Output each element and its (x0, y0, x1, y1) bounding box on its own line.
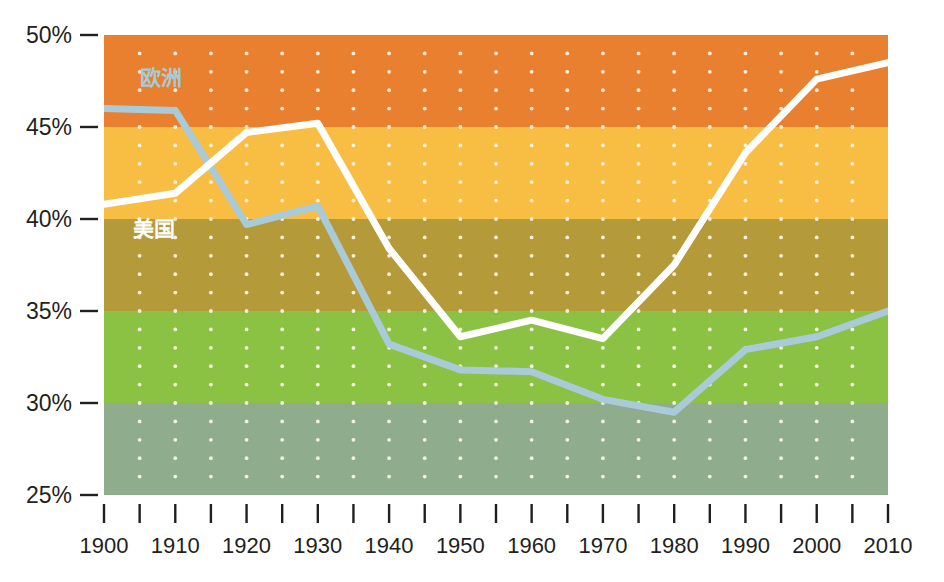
grid-dot (779, 438, 783, 442)
grid-dot (316, 70, 320, 74)
grid-dot (494, 254, 498, 258)
grid-dot (779, 162, 783, 166)
grid-dot (850, 401, 854, 405)
grid-dot (601, 144, 605, 148)
grid-dot (494, 420, 498, 424)
grid-dot (744, 254, 748, 258)
grid-dot (637, 70, 641, 74)
grid-dot (744, 217, 748, 221)
grid-dot (565, 272, 569, 276)
grid-dot (458, 456, 462, 460)
x-tick-label: 1980 (650, 533, 699, 558)
grid-dot (316, 88, 320, 92)
grid-dot (245, 309, 249, 313)
grid-dot (850, 107, 854, 111)
grid-dot (672, 291, 676, 295)
grid-dot (316, 291, 320, 295)
grid-dot (387, 272, 391, 276)
grid-dot (352, 383, 356, 387)
grid-dot (779, 401, 783, 405)
grid-dot (779, 364, 783, 368)
grid-dot (280, 180, 284, 184)
grid-dot (138, 328, 142, 332)
grid-dot (209, 401, 213, 405)
grid-dot (815, 199, 819, 203)
grid-dot (708, 309, 712, 313)
grid-dot (601, 125, 605, 129)
grid-dot (173, 475, 177, 479)
grid-dot (672, 236, 676, 240)
grid-dot (565, 217, 569, 221)
grid-dot (779, 180, 783, 184)
grid-dot (850, 309, 854, 313)
grid-dot (138, 420, 142, 424)
grid-dot (744, 199, 748, 203)
grid-dot (280, 383, 284, 387)
grid-dot (245, 70, 249, 74)
grid-dot (565, 70, 569, 74)
grid-dot (494, 162, 498, 166)
grid-dot (601, 107, 605, 111)
grid-dot (352, 162, 356, 166)
grid-dot (815, 125, 819, 129)
grid-dot (815, 254, 819, 258)
grid-dot (850, 125, 854, 129)
grid-dot (352, 70, 356, 74)
grid-dot (708, 144, 712, 148)
grid-dot (494, 438, 498, 442)
grid-dot (708, 236, 712, 240)
grid-dot (138, 162, 142, 166)
grid-dot (601, 180, 605, 184)
grid-dot (494, 52, 498, 56)
grid-dot (280, 254, 284, 258)
grid-dot (138, 456, 142, 460)
band-amber (104, 127, 888, 219)
grid-dot (744, 364, 748, 368)
y-tick-label: 25% (26, 482, 72, 508)
grid-dot (565, 144, 569, 148)
grid-dot (423, 180, 427, 184)
grid-dot (815, 236, 819, 240)
grid-dot (637, 52, 641, 56)
grid-dot (352, 309, 356, 313)
grid-dot (530, 364, 534, 368)
grid-dot (352, 217, 356, 221)
grid-dot (458, 254, 462, 258)
grid-dot (708, 254, 712, 258)
grid-dot (494, 180, 498, 184)
grid-dot (637, 309, 641, 313)
grid-dot (601, 475, 605, 479)
grid-dot (458, 401, 462, 405)
grid-dot (530, 272, 534, 276)
grid-dot (601, 88, 605, 92)
grid-dot (779, 254, 783, 258)
grid-dot (423, 309, 427, 313)
grid-dot (387, 236, 391, 240)
grid-dot (245, 88, 249, 92)
grid-dot (672, 420, 676, 424)
grid-dot (458, 70, 462, 74)
grid-dot (423, 162, 427, 166)
grid-dot (815, 70, 819, 74)
grid-dot (209, 254, 213, 258)
grid-dot (530, 456, 534, 460)
europe-label: 欧洲 (140, 66, 182, 90)
grid-dot (209, 309, 213, 313)
grid-dot (637, 236, 641, 240)
grid-dot (850, 383, 854, 387)
grid-dot (316, 309, 320, 313)
grid-dot (601, 272, 605, 276)
grid-dot (280, 364, 284, 368)
grid-dot (850, 144, 854, 148)
grid-dot (637, 217, 641, 221)
grid-dot (458, 162, 462, 166)
grid-dot (850, 162, 854, 166)
grid-dot (494, 272, 498, 276)
grid-dot (530, 254, 534, 258)
grid-dot (387, 199, 391, 203)
grid-dot (601, 456, 605, 460)
grid-dot (530, 180, 534, 184)
grid-dot (850, 199, 854, 203)
grid-dot (708, 272, 712, 276)
grid-dot (779, 52, 783, 56)
